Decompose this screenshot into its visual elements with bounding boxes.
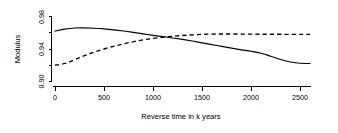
x-tick-label-1500: 1500 [194, 93, 210, 102]
chart-figure: 0.98 0.94 0.90 0 500 1000 1500 2000 2500… [0, 0, 338, 133]
x-tick-label-2000: 2000 [243, 93, 259, 102]
y-tick-label-0.98: 0.98 [37, 10, 46, 24]
x-tick-label-2500: 2500 [292, 93, 308, 102]
x-tick-label-1000: 1000 [145, 93, 161, 102]
series-line-solid [55, 28, 310, 64]
y-tick-label-0.94: 0.94 [37, 42, 46, 56]
x-tick-label-500: 500 [98, 93, 110, 102]
x-tick-label-0: 0 [53, 93, 57, 102]
x-axis-ticks [55, 87, 300, 91]
y-axis-title: Modulus [13, 34, 22, 63]
line-chart-canvas: 0.98 0.94 0.90 0 500 1000 1500 2000 2500… [0, 0, 338, 133]
y-tick-label-0.90: 0.90 [37, 75, 46, 89]
series-line-dashed [55, 34, 310, 65]
x-axis-title: Reverse time in k years [141, 112, 221, 121]
